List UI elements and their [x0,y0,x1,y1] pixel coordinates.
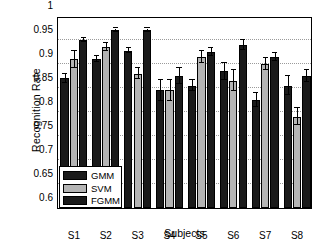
bar-svm-s3 [134,74,142,208]
error-bar-cap-top [221,62,226,63]
bar-gmm-s8 [284,86,292,208]
error-bar-line [256,93,257,107]
error-bar-cap-bottom [263,69,268,70]
error-bar-cap-bottom [81,41,86,42]
y-tick-label: 0.9 [5,48,53,59]
error-bar-cap-top [144,27,149,28]
bar-fgmm-s6 [239,45,247,208]
plot-area: 0.60.650.70.750.80.850.90.951 S1S2S3S4S5… [57,17,312,209]
error-bar-cap-bottom [294,124,299,125]
x-tick-label-s5: S5 [195,230,207,241]
error-bar-cap-top [208,47,213,48]
error-bar-cap-top [103,42,108,43]
legend-label-svm: SVM [91,183,112,194]
y-tick-label: 0.95 [5,24,53,35]
error-bar-cap-top [135,67,140,68]
error-bar-line [179,68,180,83]
error-bar-cap-top [167,79,172,80]
y-tick-label: 0.65 [5,168,53,179]
error-bar-cap-bottom [71,67,76,68]
error-bar-line [74,51,75,68]
error-bar-cap-top [199,50,204,51]
y-tick-label: 0.75 [5,120,53,131]
bar-svm-s5 [197,57,205,208]
error-bar-cap-bottom [126,52,131,53]
error-bar-cap-bottom [304,81,309,82]
error-bar-cap-top [113,27,118,28]
error-bar-cap-top [176,67,181,68]
legend-swatch-fgmm [63,196,87,205]
recognition-rate-bar-chart: Recognition Rate Subjects 0.60.650.70.75… [0,0,320,248]
y-tick-label: 0.6 [5,192,53,203]
error-bar-cap-bottom [94,61,99,62]
x-tick-label-s6: S6 [227,230,239,241]
legend-item-gmm: GMM [63,170,121,182]
error-bar-cap-top [240,39,245,40]
bar-gmm-s4 [156,90,164,208]
error-bar-cap-top [263,57,268,58]
error-bar-cap-bottom [272,60,277,61]
gridline [58,39,311,40]
y-tick-label: 0.85 [5,72,53,83]
error-bar-cap-bottom [62,82,67,83]
error-bar-cap-top [304,69,309,70]
error-bar-cap-bottom [103,50,108,51]
legend-item-svm: SVM [63,182,121,194]
error-bar-cap-top [94,55,99,56]
error-bar-cap-bottom [231,90,236,91]
x-axis-label: Subjects [57,227,312,239]
error-bar-line [224,63,225,80]
error-bar-cap-top [81,37,86,38]
y-tick-label: 0.8 [5,96,53,107]
error-bar-cap-bottom [240,49,245,50]
error-bar-cap-top [285,75,290,76]
legend-label-fgmm: FGMM [91,195,120,206]
bar-gmm-s3 [124,51,132,208]
x-tick-label-s7: S7 [259,230,271,241]
error-bar-cap-bottom [113,31,118,32]
error-bar-cap-bottom [158,100,163,101]
error-bar-line [233,70,234,91]
error-bar-cap-top [126,47,131,48]
error-bar-cap-bottom [135,78,140,79]
error-bar-line [170,80,171,101]
y-tick-label: 0.7 [5,144,53,155]
error-bar-cap-bottom [253,106,258,107]
legend-swatch-svm [63,184,87,193]
legend: GMMSVMFGMM [59,166,122,208]
x-tick-label-s4: S4 [163,230,175,241]
error-bar-cap-bottom [189,90,194,91]
y-tick-label: 1 [5,0,53,11]
error-bar-cap-top [71,50,76,51]
error-bar-cap-top [272,52,277,53]
error-bar-cap-bottom [208,55,213,56]
bar-svm-s6 [229,81,237,208]
error-bar-cap-bottom [144,31,149,32]
error-bar-line [297,108,298,125]
bar-gmm-s7 [252,100,260,208]
error-bar-cap-bottom [285,94,290,95]
bar-svm-s8 [293,117,301,208]
bar-gmm-s6 [220,71,228,208]
error-bar-cap-bottom [221,79,226,80]
error-bar-cap-top [231,69,236,70]
error-bar-cap-bottom [167,100,172,101]
error-bar-cap-top [294,107,299,108]
bar-fgmm-s7 [270,57,278,208]
legend-item-fgmm: FGMM [63,195,121,207]
bar-fgmm-s8 [302,76,310,208]
bar-svm-s4 [165,90,173,208]
x-tick-label-s8: S8 [291,230,303,241]
error-bar-cap-top [189,79,194,80]
x-tick-label-s1: S1 [68,230,80,241]
error-bar-line [288,76,289,95]
error-bar-cap-bottom [176,83,181,84]
bar-fgmm-s4 [175,76,183,208]
legend-label-gmm: GMM [91,170,114,181]
bar-fgmm-s5 [207,52,215,208]
x-tick-label-s3: S3 [132,230,144,241]
x-tick-label-s2: S2 [100,230,112,241]
error-bar-cap-bottom [199,62,204,63]
error-bar-line [160,80,161,101]
error-bar-cap-top [158,79,163,80]
